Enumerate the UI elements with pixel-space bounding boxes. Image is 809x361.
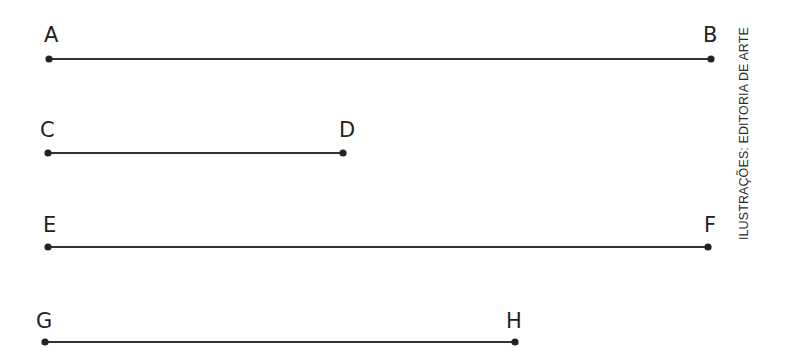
point-f-label: F	[704, 213, 716, 237]
point-e-dot	[44, 243, 51, 250]
point-e-label: E	[43, 213, 56, 237]
illustration-credit: ILUSTRAÇÕES: EDITORIA DE ARTE	[737, 27, 751, 240]
point-c-dot	[44, 149, 51, 156]
point-f-dot	[704, 243, 711, 250]
segments-diagram: A B C D E F G H	[0, 0, 809, 361]
point-b-label: B	[703, 23, 717, 47]
point-d-label: D	[339, 118, 355, 142]
segment-gh: G H	[36, 309, 522, 346]
point-h-dot	[511, 338, 518, 345]
point-c-label: C	[40, 118, 55, 142]
segment-ef: E F	[43, 213, 716, 251]
point-h-label: H	[506, 309, 522, 333]
point-d-dot	[339, 149, 346, 156]
point-a-label: A	[44, 23, 59, 47]
segment-ab: A B	[44, 23, 717, 63]
segment-cd: C D	[40, 118, 355, 157]
point-a-dot	[45, 55, 52, 62]
point-g-label: G	[36, 309, 52, 333]
point-g-dot	[41, 338, 48, 345]
point-b-dot	[707, 55, 714, 62]
